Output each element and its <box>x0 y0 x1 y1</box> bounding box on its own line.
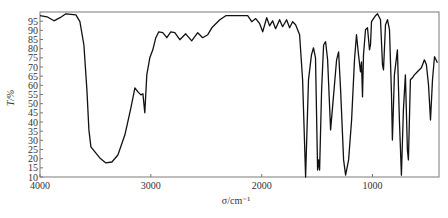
y-axis-label: T/% <box>5 90 16 107</box>
x-tick-label: 2000 <box>252 180 272 191</box>
x-tick-label: 4000 <box>30 180 50 191</box>
y-tick-label: 95 <box>28 16 38 27</box>
spectrum-line <box>40 14 437 177</box>
x-axis-label: σ/cm⁻¹ <box>222 195 250 206</box>
y-axis: 101520253035404550556065707580859095 <box>28 16 43 183</box>
ir-spectrum-chart: 101520253035404550556065707580859095 400… <box>0 0 448 218</box>
x-tick-label: 3000 <box>141 180 161 191</box>
x-tick-label: 1000 <box>363 180 383 191</box>
plot-frame <box>40 12 439 177</box>
